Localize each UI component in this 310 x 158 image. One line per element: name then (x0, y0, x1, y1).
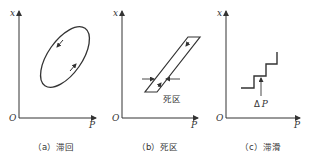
caption-b: （b）死区 (137, 142, 178, 152)
delta-p-label: ΔP (254, 99, 269, 109)
caption-a: （a）滞回 (33, 142, 74, 152)
y-axis-label: x (217, 8, 222, 18)
dead-zone-label: 死区 (163, 94, 181, 104)
x-axis-label: P (88, 120, 96, 130)
loop-arrow-up-icon (70, 64, 76, 71)
band-arrow-down-icon (186, 42, 189, 46)
x-axis-label: P (190, 120, 198, 130)
y-axis-label: x (10, 8, 15, 18)
x-axis-label: P (293, 120, 301, 130)
figure-canvas: x O P （a）滞回 x O P 死区 （b）死区 x O P ΔP (0, 0, 310, 158)
panel-stick-slip: x O P ΔP （c）滞滑 (216, 8, 301, 152)
loop-arrow-down-icon (57, 40, 63, 47)
panel-dead-zone: x O P 死区 （b）死区 (112, 8, 200, 152)
panel-hysteresis: x O P （a）滞回 (9, 8, 99, 152)
stick-slip-staircase (241, 52, 277, 88)
origin-label: O (112, 113, 120, 123)
hysteresis-loop (31, 19, 99, 96)
origin-label: O (9, 113, 17, 123)
origin-label: O (216, 113, 224, 123)
dead-zone-band (145, 37, 200, 92)
y-axis-label: x (113, 8, 118, 18)
caption-c: （c）滞滑 (240, 142, 281, 152)
band-arrow-up-icon (158, 83, 161, 87)
